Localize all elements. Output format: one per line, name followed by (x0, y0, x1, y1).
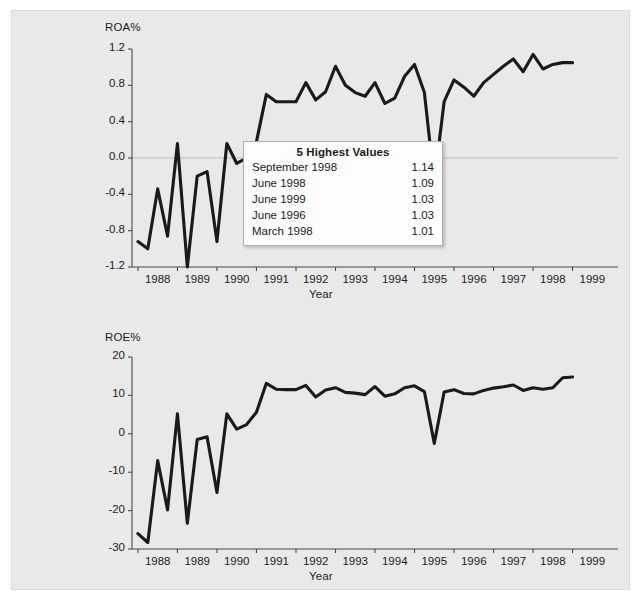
roe-plot-svg (12, 311, 631, 591)
x-tick-label: 1992 (296, 273, 336, 285)
roa-period-value: 1.03 (396, 208, 434, 224)
y-tick-label: 10 (112, 387, 125, 399)
x-tick-label: 1992 (296, 555, 336, 567)
x-tick-label: 1993 (335, 273, 375, 285)
roe-x-axis-title: Year (309, 570, 333, 582)
y-tick-label: -0.8 (105, 223, 125, 235)
roa-period-value: 1.14 (396, 160, 434, 176)
roa-box-title: 5 Highest Values (252, 146, 434, 158)
x-tick-label: 1991 (256, 273, 296, 285)
x-tick-label: 1999 (572, 273, 612, 285)
y-tick-label: 0 (119, 426, 125, 438)
x-tick-label: 1990 (217, 555, 257, 567)
roa-period-label: June 1999 (252, 192, 396, 208)
x-tick-label: 1989 (177, 555, 217, 567)
table-row: June 19981.09 (252, 176, 434, 192)
roa-period-label: September 1998 (252, 160, 396, 176)
roe-y-axis-title: ROE% (105, 331, 141, 343)
roa-period-label: June 1998 (252, 176, 396, 192)
x-tick-label: 1988 (138, 555, 178, 567)
x-tick-label: 1996 (454, 273, 494, 285)
roa-period-label: June 1996 (252, 208, 396, 224)
chart-frame: ROA% Year 5 Highest Values September 199… (11, 10, 630, 590)
x-tick-label: 1991 (256, 555, 296, 567)
x-tick-label: 1990 (217, 273, 257, 285)
chart-panel-roa: ROA% Year 5 Highest Values September 199… (12, 11, 631, 311)
y-tick-label: 0.8 (109, 77, 125, 89)
roa-x-axis-title: Year (309, 288, 333, 300)
table-row: September 19981.14 (252, 160, 434, 176)
y-tick-label: -0.4 (105, 186, 125, 198)
y-tick-label: 0.4 (109, 114, 125, 126)
y-tick-label: 0.0 (109, 150, 125, 162)
x-tick-label: 1998 (533, 273, 573, 285)
y-tick-label: -10 (108, 464, 125, 476)
x-tick-label: 1994 (375, 555, 415, 567)
x-tick-label: 1995 (414, 555, 454, 567)
x-tick-label: 1988 (138, 273, 178, 285)
roa-highest-values-box: 5 Highest Values September 19981.14June … (243, 141, 443, 246)
data-series-line (138, 377, 573, 542)
x-tick-label: 1997 (493, 273, 533, 285)
x-tick-label: 1993 (335, 555, 375, 567)
x-tick-label: 1994 (375, 273, 415, 285)
x-tick-label: 1995 (414, 273, 454, 285)
y-tick-label: 20 (112, 349, 125, 361)
y-tick-label: -30 (108, 541, 125, 553)
y-tick-label: -20 (108, 503, 125, 515)
roa-y-axis-title: ROA% (105, 21, 141, 33)
figure-root: ROA% Year 5 Highest Values September 199… (0, 0, 641, 604)
table-row: June 19991.03 (252, 192, 434, 208)
chart-panel-roe: ROE% Year 5 Highest Values March 199313.… (12, 311, 631, 591)
y-tick-label: 1.2 (109, 41, 125, 53)
roa-period-value: 1.01 (396, 224, 434, 240)
x-tick-label: 1996 (454, 555, 494, 567)
x-tick-label: 1989 (177, 273, 217, 285)
table-row: June 19961.03 (252, 208, 434, 224)
roa-highest-values-table: September 19981.14June 19981.09June 1999… (252, 160, 434, 240)
table-row: March 19981.01 (252, 224, 434, 240)
roa-period-value: 1.03 (396, 192, 434, 208)
y-tick-label: -1.2 (105, 259, 125, 271)
x-tick-label: 1999 (572, 555, 612, 567)
roa-period-label: March 1998 (252, 224, 396, 240)
x-tick-label: 1998 (533, 555, 573, 567)
roa-period-value: 1.09 (396, 176, 434, 192)
x-tick-label: 1997 (493, 555, 533, 567)
